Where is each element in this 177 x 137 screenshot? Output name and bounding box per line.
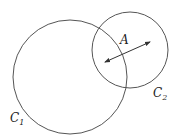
circle-c2 bbox=[92, 12, 168, 88]
circle-label-c2: C2 bbox=[153, 86, 167, 102]
c1-letter: C bbox=[10, 111, 19, 125]
circle-label-c1: C1 bbox=[10, 111, 24, 127]
region-label-a: A bbox=[119, 33, 129, 47]
diagram-canvas: A C1 C2 bbox=[0, 0, 177, 137]
circle-c1 bbox=[13, 20, 127, 134]
c2-subscript: 2 bbox=[161, 93, 167, 102]
c2-letter: C bbox=[153, 86, 162, 100]
c1-subscript: 1 bbox=[19, 118, 24, 127]
